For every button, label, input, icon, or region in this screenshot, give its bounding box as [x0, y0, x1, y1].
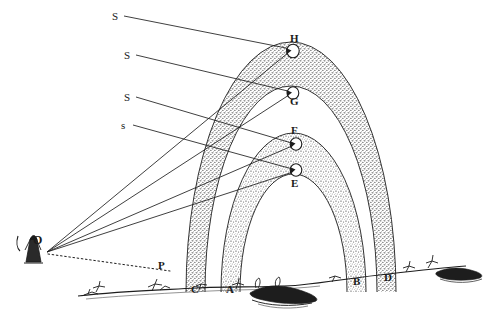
raindrop-label-H: H — [290, 33, 299, 44]
diagram-canvas — [0, 0, 488, 315]
ground-label-A: A — [226, 284, 234, 295]
sun-ray-to-H — [124, 16, 291, 49]
observer-label-O: O — [33, 234, 42, 246]
horizon-label-P: P — [158, 260, 165, 271]
ray-E-to-O — [47, 172, 293, 252]
sun-ray-label-3: S — [124, 92, 130, 103]
sun-ray-label-4: s — [121, 120, 125, 131]
raindrop-H — [286, 44, 299, 58]
ground-label-D: D — [384, 272, 392, 283]
ground-bush-right — [436, 268, 482, 282]
sun-ray-label-1: S — [112, 11, 118, 22]
ray-H-to-O — [47, 52, 289, 252]
raindrop-E — [290, 164, 302, 176]
ground-label-B: B — [353, 276, 360, 287]
sun-ray-label-2: S — [124, 50, 130, 61]
raindrop-F — [290, 138, 302, 150]
raindrop-label-F: F — [291, 125, 298, 136]
rainbow-diagram: S S S s H G F E C A B D O P — [0, 0, 488, 315]
raindrop-label-E: E — [291, 178, 298, 189]
axis-O-to-P — [48, 254, 170, 271]
raindrop-label-G: G — [290, 96, 299, 107]
ground-label-C: C — [191, 284, 199, 295]
